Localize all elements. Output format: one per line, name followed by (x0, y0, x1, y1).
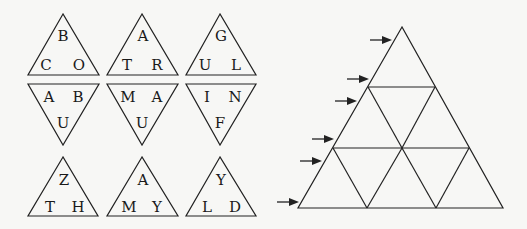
letter-bottom: U (136, 114, 149, 132)
letter-top: Y (215, 171, 227, 189)
piece-r2c3: I N F (186, 84, 256, 145)
grid-line (436, 148, 469, 208)
arrow-icon (335, 97, 357, 105)
letter-bottom: F (215, 114, 225, 132)
letter-right: D (229, 198, 241, 216)
letter-left: M (121, 198, 136, 216)
grid-line (333, 148, 367, 208)
letter-right: L (231, 56, 241, 74)
letter-bottom: U (57, 114, 70, 132)
piece-r1c3: G U L (186, 14, 256, 75)
letter-left: C (40, 56, 51, 74)
letter-left: I (204, 88, 210, 106)
letter-right: Y (151, 198, 163, 216)
letter-top: G (215, 27, 227, 45)
letter-left: U (199, 56, 212, 74)
letter-top: A (137, 171, 149, 189)
letter-right: A (151, 88, 163, 106)
piece-r2c1: A B U (28, 84, 99, 145)
letter-right: O (73, 56, 85, 74)
piece-r3c3: Y L D (186, 157, 256, 216)
target-triangle-grid (298, 27, 503, 208)
arrow-icon (347, 75, 369, 83)
arrow-icon (370, 36, 392, 44)
letter-left: T (122, 56, 132, 74)
letter-left: M (120, 88, 135, 106)
grid-line (402, 87, 435, 148)
grid-line (367, 148, 402, 208)
letter-left: A (43, 88, 55, 106)
arrow-icon (277, 198, 299, 206)
grid-line (402, 148, 436, 208)
grid-line (368, 87, 402, 148)
arrow-icon (312, 135, 334, 143)
puzzle-diagram: B C O A T R G U L A B U M A U I N F Z T … (0, 0, 527, 229)
piece-r1c1: B C O (28, 14, 99, 75)
outer-triangle (298, 27, 503, 208)
piece-r2c2: M A U (107, 84, 178, 145)
letter-top: B (57, 27, 68, 45)
piece-r3c2: A M Y (107, 157, 178, 216)
arrow-icon (300, 157, 322, 165)
letter-left: T (45, 198, 55, 216)
letter-top: Z (59, 171, 69, 189)
piece-r3c1: Z T H (28, 157, 98, 216)
letter-right: B (72, 88, 83, 106)
letter-top: A (137, 27, 149, 45)
letter-left: L (202, 198, 212, 216)
letter-right: H (71, 198, 84, 216)
letter-right: N (228, 88, 241, 106)
letter-right: R (151, 56, 163, 74)
piece-r1c2: A T R (107, 14, 178, 75)
